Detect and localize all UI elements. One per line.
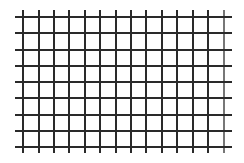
grid-horizontal-line — [15, 97, 232, 98]
grid-horizontal-line — [15, 16, 232, 17]
grid-horizontal-line — [15, 81, 232, 82]
grid-horizontal-line — [15, 32, 232, 33]
grid-horizontal-line — [15, 114, 232, 115]
grid-horizontal-line — [15, 49, 232, 50]
grid-horizontal-line — [15, 146, 232, 147]
grid-horizontal-line — [15, 65, 232, 66]
grid-horizontal-line — [15, 130, 232, 131]
grid-diagram — [0, 0, 244, 163]
